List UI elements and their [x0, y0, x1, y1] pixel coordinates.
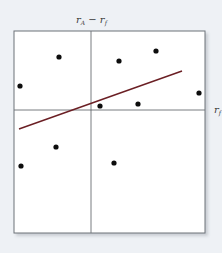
- data-point: [116, 58, 121, 63]
- data-point: [18, 163, 23, 168]
- chart-canvas: rA − rf rf: [0, 0, 222, 253]
- data-point: [153, 48, 158, 53]
- data-point: [196, 90, 201, 95]
- data-point: [111, 160, 116, 165]
- data-point: [53, 144, 58, 149]
- data-point: [97, 103, 102, 108]
- data-point: [56, 54, 61, 59]
- data-point: [135, 101, 140, 106]
- data-point: [17, 83, 22, 88]
- x-axis-label: rf: [214, 104, 221, 116]
- plot-area: [14, 31, 205, 233]
- scatter-plot: [0, 0, 222, 253]
- y-axis-label: rA − rf: [76, 14, 107, 26]
